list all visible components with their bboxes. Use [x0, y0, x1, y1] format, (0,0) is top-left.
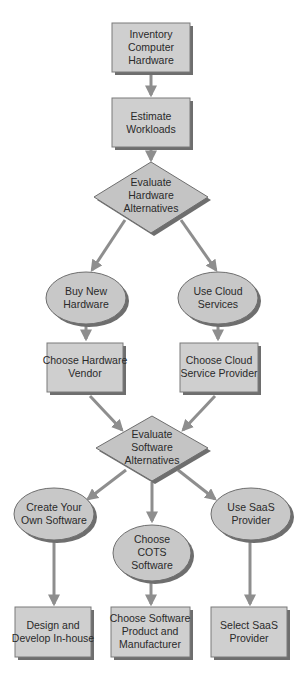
- node-label: Choose Cloud: [186, 354, 253, 366]
- node-label: Choose: [134, 533, 170, 545]
- edge-eval-hw-buy-new: [92, 220, 125, 270]
- node-label: Hardware: [128, 54, 174, 66]
- node-evaluate-hardware-alternatives: Evaluate Hardware Alternatives: [94, 162, 211, 236]
- node-label: Develop In-house: [12, 632, 94, 644]
- node-label: Provider: [231, 514, 271, 526]
- node-label: Choose Hardware: [43, 354, 128, 366]
- node-label: Software: [131, 441, 173, 453]
- node-label: Manufacturer: [119, 638, 181, 650]
- node-label: Evaluate: [131, 176, 172, 188]
- node-choose-cots-software: Choose COTS Software: [113, 525, 194, 584]
- node-label: Vendor: [68, 367, 102, 379]
- node-design-and-develop-in-house: Design and Develop In-house: [12, 607, 94, 660]
- node-label: Create Your: [26, 501, 82, 513]
- edge-eval-sw-create-own: [88, 470, 126, 499]
- node-evaluate-software-alternatives: Evaluate Software Alternatives: [96, 416, 211, 484]
- node-label: Services: [198, 298, 238, 310]
- node-choose-software-product-and-manufacturer: Choose Software Product and Manufacturer: [110, 607, 193, 660]
- node-select-saas-provider: Select SaaS Provider: [211, 607, 290, 660]
- node-label: Product and: [122, 625, 179, 637]
- node-label: Own Software: [21, 514, 87, 526]
- node-label: Use Cloud: [193, 285, 242, 297]
- node-label: Alternatives: [125, 454, 180, 466]
- node-label: Workloads: [126, 123, 175, 135]
- node-label: Choose Software: [110, 612, 191, 624]
- node-label: Hardware: [63, 298, 109, 310]
- edge-eval-sw-use-saas: [178, 470, 215, 499]
- node-label: Use SaaS: [227, 501, 274, 513]
- node-use-cloud-services: Use Cloud Services: [178, 272, 261, 327]
- edge-choose-cloud-provider-eval-sw: [183, 396, 215, 430]
- node-buy-new-hardware: Buy New Hardware: [46, 272, 129, 327]
- node-label: Software: [131, 559, 173, 571]
- node-label: Buy New: [65, 285, 107, 297]
- node-label: Evaluate: [132, 428, 173, 440]
- node-use-saas-provider: Use SaaS Provider: [211, 488, 294, 543]
- node-label: COTS: [137, 546, 166, 558]
- edge-choose-hw-vendor-eval-sw: [90, 396, 122, 430]
- node-label: Inventory: [129, 28, 173, 40]
- node-label: Design and: [26, 619, 79, 631]
- node-inventory-computer-hardware: Inventory Computer Hardware: [112, 23, 193, 75]
- node-choose-cloud-service-provider: Choose Cloud Service Provider: [180, 343, 261, 395]
- edge-eval-hw-use-cloud: [181, 220, 216, 270]
- node-label: Alternatives: [124, 202, 179, 214]
- node-choose-hardware-vendor: Choose Hardware Vendor: [43, 343, 128, 395]
- node-label: Computer: [128, 41, 175, 53]
- node-label: Select SaaS: [220, 619, 278, 631]
- node-label: Service Provider: [180, 367, 258, 379]
- node-label: Provider: [229, 632, 269, 644]
- node-create-your-own-software: Create Your Own Software: [14, 488, 97, 543]
- node-label: Estimate: [131, 110, 172, 122]
- node-label: Hardware: [128, 189, 174, 201]
- node-estimate-workloads: Estimate Workloads: [112, 98, 193, 150]
- flowchart: Inventory Computer Hardware Estimate Wor…: [0, 0, 308, 689]
